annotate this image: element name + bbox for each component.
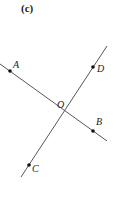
geometry-figure: (c) A B C D O: [0, 0, 130, 210]
label-d: D: [96, 63, 105, 74]
label-o-intersection: O: [57, 99, 64, 110]
point-d: [91, 65, 95, 69]
point-c: [27, 163, 31, 167]
label-b: B: [96, 116, 102, 127]
point-b: [91, 129, 95, 133]
label-a: A: [12, 59, 20, 70]
intersecting-lines-diagram: A B C D O: [0, 0, 130, 210]
label-c: C: [32, 163, 39, 174]
line-ab: [0, 64, 107, 141]
point-a: [8, 69, 12, 73]
